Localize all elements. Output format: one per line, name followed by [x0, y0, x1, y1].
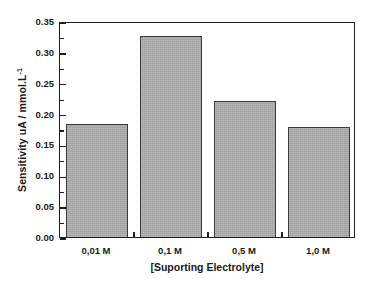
bar — [214, 101, 275, 237]
y-axis-tick-labels: 0.000.050.100.150.200.250.300.35 — [20, 0, 54, 283]
y-axis-tick-label: 0.00 — [20, 232, 54, 243]
x-axis-tick-label: 0,01 M — [81, 245, 110, 256]
bar — [140, 36, 201, 237]
y-axis-minor-tick — [60, 223, 64, 224]
y-axis-tick — [60, 177, 66, 178]
plot-inner — [60, 23, 354, 237]
y-axis-minor-tick — [60, 38, 64, 39]
x-axis-tick — [133, 232, 134, 237]
x-axis-tick-label: 1,0 M — [306, 245, 330, 256]
y-axis-tick — [60, 238, 66, 239]
y-axis-tick — [60, 207, 66, 208]
y-axis-tick — [60, 146, 66, 147]
y-axis-minor-tick — [60, 69, 64, 70]
y-axis-minor-tick — [60, 100, 64, 101]
y-axis-tick-label: 0.30 — [20, 47, 54, 58]
bar-chart-figure: Sensitivity uA / mmol.L-1 0.000.050.100.… — [0, 0, 373, 283]
x-axis-tick — [207, 232, 208, 237]
y-axis-minor-tick — [60, 161, 64, 162]
bar — [288, 127, 349, 237]
plot-area — [59, 22, 355, 238]
y-axis-tick — [60, 22, 66, 23]
bar — [66, 124, 127, 237]
y-axis-tick — [60, 84, 66, 85]
x-axis-tick-label: 0,5 M — [232, 245, 256, 256]
x-axis-tick-label: 0,1 M — [158, 245, 182, 256]
y-axis-tick — [60, 53, 66, 54]
y-axis-tick — [60, 115, 66, 116]
y-axis-tick-label: 0.15 — [20, 139, 54, 150]
y-axis-minor-tick — [60, 130, 64, 131]
x-axis-tick — [281, 232, 282, 237]
x-axis-title: [Suporting Electrolyte] — [59, 261, 355, 273]
y-axis-minor-tick — [60, 192, 64, 193]
y-axis-tick-label: 0.35 — [20, 16, 54, 27]
y-axis-tick-label: 0.20 — [20, 109, 54, 120]
y-axis-tick-label: 0.25 — [20, 78, 54, 89]
y-axis-tick-label: 0.10 — [20, 170, 54, 181]
y-axis-tick-label: 0.05 — [20, 201, 54, 212]
